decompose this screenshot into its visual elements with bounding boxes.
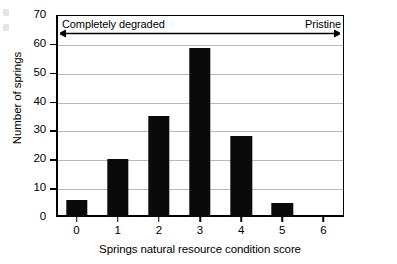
y-tick-label: 0 (16, 211, 46, 223)
bar (230, 136, 251, 217)
x-tick-label: 2 (146, 224, 172, 236)
bar-series (56, 15, 344, 217)
x-tick-mark (323, 217, 325, 222)
scan-artifact (3, 24, 9, 31)
x-tick-mark (76, 217, 78, 222)
bar (148, 116, 169, 217)
x-tick-mark (199, 217, 201, 222)
x-tick-label: 3 (187, 224, 213, 236)
x-tick-label: 6 (310, 224, 336, 236)
x-tick-mark (282, 217, 284, 222)
x-tick-mark (117, 217, 119, 222)
springs-condition-score-histogram: 010203040506070 Number of springs 012345… (0, 0, 397, 264)
y-tick-label: 10 (16, 182, 46, 194)
bar (107, 159, 128, 217)
scan-artifact (3, 9, 9, 16)
x-tick-label: 5 (269, 224, 295, 236)
x-tick-mark (240, 217, 242, 222)
x-tick-label: 0 (64, 224, 90, 236)
x-axis-title: Springs natural resource condition score (56, 243, 344, 255)
bar (272, 203, 293, 217)
x-tick-label: 4 (228, 224, 254, 236)
y-axis-title: Number of springs (11, 18, 23, 178)
x-tick-label: 1 (105, 224, 131, 236)
condition-gradient-arrow (60, 29, 340, 38)
x-tick-mark (158, 217, 160, 222)
bar (66, 200, 87, 217)
bar (189, 48, 210, 217)
